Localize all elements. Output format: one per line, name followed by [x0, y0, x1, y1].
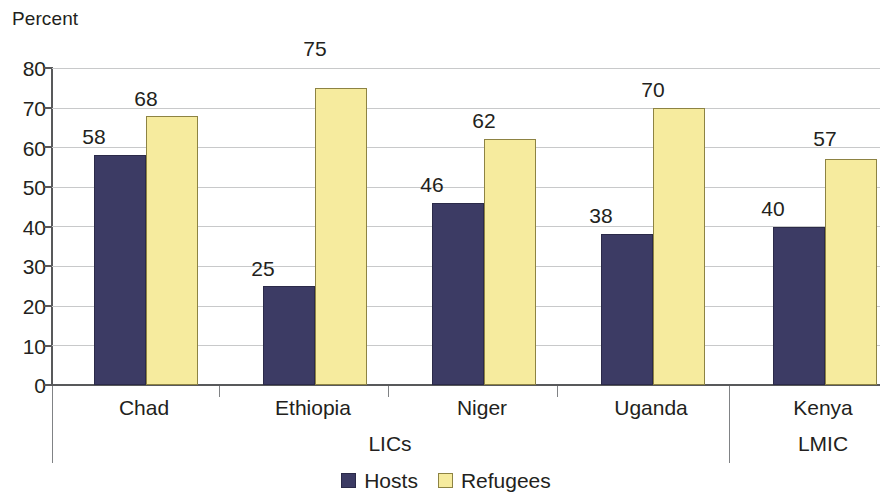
y-tick-label-60: 60	[23, 138, 46, 159]
x-tick-mark-uganda-kenya	[729, 386, 730, 397]
x-label-uganda: Uganda	[591, 396, 711, 420]
x-tick-mark-chad-ethiopia	[219, 386, 220, 397]
bar-kenya-hosts	[773, 227, 825, 385]
bar-kenya-refugees	[825, 159, 877, 385]
value-label-uganda-hosts: 38	[575, 205, 627, 226]
value-label-chad-refugees: 68	[120, 88, 172, 109]
legend-item-refugees: Refugees	[438, 470, 551, 491]
bar-chad-hosts	[94, 155, 146, 385]
y-tick-label-20: 20	[23, 296, 46, 317]
legend-swatch-hosts-icon	[341, 473, 356, 488]
bar-niger-refugees	[484, 139, 536, 385]
value-label-chad-hosts: 58	[68, 126, 120, 147]
x-tick-mark-niger-uganda	[557, 386, 558, 397]
legend-swatch-refugees-icon	[438, 473, 453, 488]
bar-uganda-refugees	[653, 108, 705, 385]
value-label-ethiopia-hosts: 25	[237, 258, 289, 279]
y-tick-label-70: 70	[23, 98, 46, 119]
x-tick-mark-start	[52, 386, 53, 397]
x-label-niger: Niger	[422, 396, 542, 420]
y-tick-label-80: 80	[23, 58, 46, 79]
bar-ethiopia-refugees	[315, 88, 367, 385]
y-axis-unit-label: Percent	[12, 8, 78, 30]
bar-niger-hosts	[432, 203, 484, 385]
gridline-80	[52, 68, 880, 69]
value-label-niger-hosts: 46	[406, 174, 458, 195]
bar-chad-refugees	[146, 116, 198, 385]
x-label-ethiopia: Ethiopia	[253, 396, 373, 420]
bar-ethiopia-hosts	[263, 286, 315, 385]
bar-chart-figure: Percent 80 70 60 50 40 30 20 10 0	[0, 0, 892, 503]
y-tick-label-30: 30	[23, 256, 46, 277]
x-label-kenya: Kenya	[763, 396, 883, 420]
x-label-chad: Chad	[84, 396, 204, 420]
x-tick-mark-ethiopia-niger	[388, 386, 389, 397]
legend-label-refugees: Refugees	[461, 470, 551, 491]
group-label-lmic: LMIC	[763, 432, 883, 456]
value-label-niger-refugees: 62	[458, 110, 510, 131]
value-label-uganda-refugees: 70	[627, 79, 679, 100]
y-tick-label-50: 50	[23, 177, 46, 198]
value-label-kenya-refugees: 57	[799, 128, 851, 149]
chart-legend: Hosts Refugees	[0, 470, 892, 491]
legend-item-hosts: Hosts	[341, 470, 418, 491]
y-tick-label-40: 40	[23, 217, 46, 238]
gridline-70	[52, 108, 880, 109]
value-label-ethiopia-refugees: 75	[289, 38, 341, 59]
bar-uganda-hosts	[601, 234, 653, 385]
value-label-kenya-hosts: 40	[747, 198, 799, 219]
legend-label-hosts: Hosts	[364, 470, 418, 491]
group-label-lics: LICs	[330, 432, 450, 456]
y-tick-label-10: 10	[23, 336, 46, 357]
